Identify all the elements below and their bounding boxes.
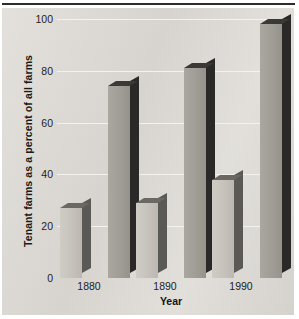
y-tick-label: 60 [27, 117, 53, 129]
bar-front-face [136, 203, 158, 278]
bar-side-face [282, 14, 291, 273]
y-tick-label: 20 [27, 220, 53, 232]
bar-side-face [82, 198, 91, 273]
bar-1990-series-light [212, 180, 234, 278]
chart-figure: Tenant farms as a percent of all farms 0… [0, 0, 299, 319]
bar-1890-series-light [136, 203, 158, 278]
x-tick-label: 1880 [77, 280, 100, 292]
y-axis-tick-labels: 020406080100 [21, 19, 53, 278]
gridline [57, 226, 285, 227]
x-axis-tick-labels: 188018901990 [57, 280, 285, 296]
bar-1990-series-dark [260, 24, 282, 278]
gridline [57, 174, 285, 175]
bar-side-face [158, 193, 167, 273]
y-tick-label: 80 [27, 65, 53, 77]
y-tick-label: 40 [27, 168, 53, 180]
bar-1880-series-dark [108, 86, 130, 278]
gridline [57, 19, 285, 20]
bar-front-face [108, 86, 130, 278]
bar-front-face [184, 68, 206, 278]
gridline [57, 71, 285, 72]
top-rule-divider [2, 3, 295, 5]
bar-1880-series-light [60, 208, 82, 278]
bar-front-face [260, 24, 282, 278]
plot-area [57, 19, 285, 278]
y-tick-label: 0 [27, 272, 53, 284]
gridline [57, 123, 285, 124]
y-tick-label: 100 [27, 13, 53, 25]
x-tick-label: 1990 [229, 280, 252, 292]
x-tick-label: 1890 [153, 280, 176, 292]
bar-side-face [234, 170, 243, 273]
bar-front-face [212, 180, 234, 278]
bar-front-face [60, 208, 82, 278]
x-axis-label: Year [57, 295, 285, 307]
bar-1890-series-dark [184, 68, 206, 278]
